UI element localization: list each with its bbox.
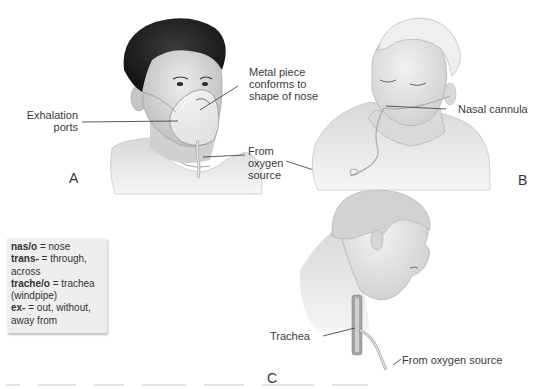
label-exhalation-ports: Exhalation ports bbox=[20, 109, 78, 133]
label-oxygen-source-a: From oxygen source bbox=[248, 145, 283, 181]
label-metal-piece-line1: Metal piece bbox=[249, 66, 318, 78]
glossary-definition: = through, bbox=[39, 253, 87, 264]
label-oxygen-a-line1: From bbox=[248, 145, 283, 157]
label-metal-piece-line2: conforms to bbox=[249, 78, 318, 90]
glossary-entry: trache/o = trachea bbox=[11, 278, 103, 290]
glossary-term: nas/o bbox=[11, 241, 37, 252]
label-oxygen-a-line2: oxygen bbox=[248, 157, 283, 169]
glossary-term: trans- bbox=[11, 253, 39, 264]
label-oxygen-source-c: From oxygen source bbox=[402, 354, 502, 366]
glossary-entry-continued: (windpipe) bbox=[11, 290, 103, 302]
cropped-caption-strip bbox=[0, 381, 538, 389]
label-exhalation-line2: ports bbox=[20, 121, 78, 133]
glossary-definition: = out, without, bbox=[25, 302, 90, 313]
label-nasal-cannula: Nasal cannula bbox=[458, 103, 528, 115]
label-trachea: Trachea bbox=[270, 330, 310, 342]
glossary-entry: ex- = out, without, bbox=[11, 302, 103, 314]
glossary-definition: across bbox=[11, 266, 40, 277]
panel-a-illustration bbox=[82, 18, 332, 194]
glossary-term: trache/o bbox=[11, 278, 50, 289]
glossary-definition: (windpipe) bbox=[11, 290, 57, 301]
label-exhalation-line1: Exhalation bbox=[20, 109, 78, 121]
glossary-entry-continued: away from bbox=[11, 315, 103, 327]
label-metal-piece: Metal piece conforms to shape of nose bbox=[249, 66, 318, 102]
panel-c-illustration bbox=[300, 190, 431, 370]
glossary-entry-continued: across bbox=[11, 266, 103, 278]
word-parts-glossary: nas/o = nose trans- = through, across tr… bbox=[7, 238, 107, 333]
label-oxygen-a-line3: source bbox=[248, 169, 283, 181]
panel-letter-a: A bbox=[69, 170, 78, 186]
glossary-definition: away from bbox=[11, 315, 57, 326]
glossary-definition: = nose bbox=[37, 241, 70, 252]
panel-letter-b: B bbox=[518, 172, 527, 188]
glossary-entry: trans- = through, bbox=[11, 253, 103, 265]
glossary-definition: = trachea bbox=[50, 278, 95, 289]
glossary-term: ex- bbox=[11, 302, 25, 313]
glossary-entry: nas/o = nose bbox=[11, 241, 103, 253]
label-metal-piece-line3: shape of nose bbox=[249, 90, 318, 102]
